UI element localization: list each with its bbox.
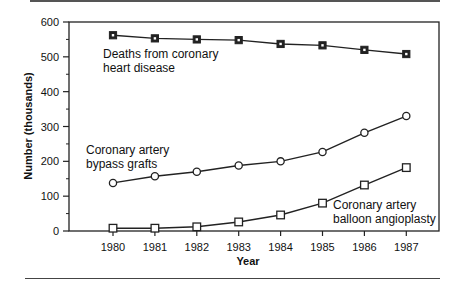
x-tick-label: 1982: [185, 241, 209, 253]
data-point-square-open: [277, 211, 285, 219]
balloon-annotation-line2: balloon angioplasty: [333, 212, 436, 226]
x-axis: 19801981198219831984198519861987: [101, 231, 419, 253]
y-tick-label: 400: [41, 86, 59, 98]
y-axis-title: Number (thousands): [22, 72, 34, 180]
data-point-square-open: [193, 223, 201, 231]
data-point-square-center: [405, 53, 407, 55]
data-point-square-center: [363, 49, 365, 51]
y-tick-label: 200: [41, 155, 59, 167]
x-axis-title: Year: [236, 255, 260, 267]
y-tick-label: 100: [41, 190, 59, 202]
y-tick-label: 0: [53, 225, 59, 237]
data-point-circle: [109, 179, 116, 186]
y-tick-label: 500: [41, 51, 59, 63]
data-point-square-open: [235, 218, 243, 226]
deaths-annotation-line2: heart disease: [103, 61, 175, 75]
data-point-square-center: [154, 37, 156, 39]
x-tick-label: 1980: [101, 241, 125, 253]
balloon-annotation-line1: Coronary artery: [333, 198, 416, 212]
data-point-circle: [319, 148, 326, 155]
y-tick-label: 600: [41, 16, 59, 28]
line-chart: 0100200300400500600 19801981198219831984…: [0, 0, 460, 289]
x-tick-label: 1981: [143, 241, 167, 253]
y-axis: 0100200300400500600: [41, 16, 69, 237]
deaths-annotation-line1: Deaths from coronary: [103, 47, 218, 61]
data-point-square-center: [196, 38, 198, 40]
data-point-square-open: [109, 224, 117, 232]
bypass-annotation-line2: bypass grafts: [86, 157, 157, 171]
bypass-annotation-line1: Coronary artery: [86, 143, 169, 157]
data-point-circle: [403, 112, 410, 119]
data-point-circle: [361, 129, 368, 136]
data-point-square-center: [112, 34, 114, 36]
y-tick-label: 300: [41, 121, 59, 133]
data-point-square-center: [321, 44, 323, 46]
data-point-square-center: [279, 43, 281, 45]
x-tick-label: 1987: [394, 241, 418, 253]
x-tick-label: 1986: [352, 241, 376, 253]
x-tick-label: 1983: [226, 241, 250, 253]
data-point-square-open: [151, 224, 159, 232]
data-point-square-center: [238, 39, 240, 41]
data-point-square-open: [403, 164, 411, 172]
x-tick-label: 1985: [310, 241, 334, 253]
data-point-square-open: [361, 181, 369, 189]
data-point-circle: [151, 173, 158, 180]
data-point-circle: [235, 162, 242, 169]
data-point-circle: [193, 168, 200, 175]
x-tick-label: 1984: [268, 241, 292, 253]
data-point-circle: [277, 158, 284, 165]
data-point-square-open: [319, 199, 327, 207]
